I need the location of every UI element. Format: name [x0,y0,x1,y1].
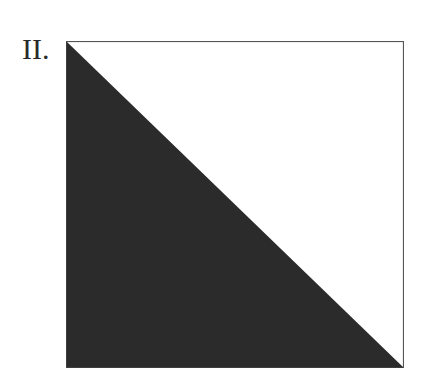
square-figure [66,41,404,368]
figure-label: II. [22,34,49,64]
diagonal-square-diagram [66,41,404,368]
